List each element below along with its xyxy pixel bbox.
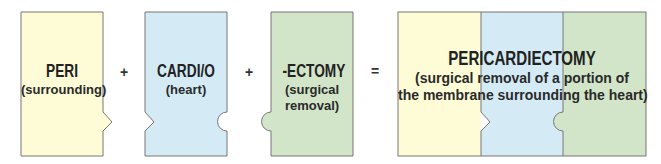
result-label: PERICARDIECTOMY (surgical removal of a p… — [398, 46, 646, 104]
cardio-meaning: (heart) — [145, 82, 227, 98]
plus-operator-2: + — [245, 64, 253, 80]
cardio-term: CARDI/O — [156, 60, 215, 82]
ectomy-meaning-2: removal) — [271, 98, 353, 114]
ectomy-label: -ECTOMY (surgical removal) — [271, 60, 353, 114]
peri-term: PERI — [32, 60, 91, 82]
result-meaning-2: the membrane surrounding the heart) — [398, 87, 646, 104]
equals-operator: = — [371, 63, 379, 79]
cardio-label: CARDI/O (heart) — [145, 60, 227, 98]
ectomy-meaning-1: (surgical — [271, 82, 353, 98]
ectomy-term: -ECTOMY — [282, 60, 341, 82]
plus-operator-1: + — [120, 64, 128, 80]
result-term: PERICARDIECTOMY — [433, 46, 612, 70]
peri-label: PERI (surrounding) — [21, 60, 103, 98]
peri-meaning: (surrounding) — [21, 82, 103, 98]
result-meaning-1: (surgical removal of a portion of — [398, 70, 646, 87]
